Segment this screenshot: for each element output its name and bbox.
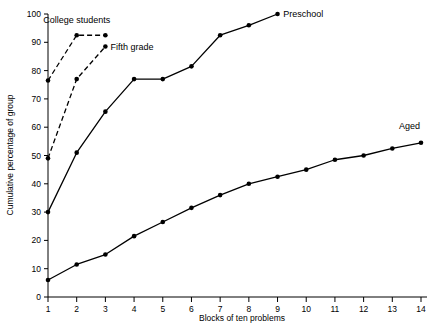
series-label-fifth-grade: Fifth grade	[111, 42, 154, 52]
y-tick-label: 70	[32, 94, 42, 104]
y-tick-label: 40	[32, 179, 42, 189]
data-point-marker	[74, 77, 79, 82]
data-point-marker	[103, 44, 108, 49]
x-tick-label: 11	[331, 304, 340, 314]
data-point-marker	[275, 174, 280, 179]
x-axis-title: Blocks of ten problems	[199, 313, 285, 323]
data-point-marker	[218, 193, 223, 198]
x-tick-label: 2	[74, 304, 79, 314]
data-point-marker	[46, 278, 51, 283]
y-axis-title: Cumulative percentage of group	[5, 94, 15, 215]
y-tick-label: 50	[32, 151, 42, 161]
cumulative-percentage-line-chart: 0102030405060708090100 12345678910111213…	[0, 0, 436, 326]
data-point-marker	[103, 109, 108, 114]
y-tick-label: 80	[32, 66, 42, 76]
y-tick-label: 60	[32, 122, 42, 132]
series-label-aged: Aged	[399, 121, 420, 131]
y-tick-label: 100	[27, 9, 41, 19]
y-tick-label: 20	[32, 235, 42, 245]
data-point-marker	[333, 157, 338, 162]
data-point-marker	[247, 182, 252, 187]
series-label-college-students: College students	[43, 15, 111, 25]
x-tick-label: 6	[189, 304, 194, 314]
data-point-marker	[189, 64, 194, 69]
y-tick-label: 0	[36, 292, 41, 302]
y-tick-label: 30	[32, 207, 42, 217]
chart-background	[0, 0, 436, 326]
data-point-marker	[103, 252, 108, 257]
x-tick-label: 5	[160, 304, 165, 314]
data-point-marker	[46, 156, 51, 161]
x-tick-label: 10	[301, 304, 311, 314]
data-point-marker	[419, 140, 424, 145]
x-tick-label: 3	[103, 304, 108, 314]
data-point-marker	[74, 33, 79, 38]
x-tick-label: 12	[359, 304, 369, 314]
x-tick-label: 4	[132, 304, 137, 314]
data-point-marker	[189, 206, 194, 211]
data-point-marker	[390, 146, 395, 151]
data-point-marker	[361, 153, 366, 158]
data-point-marker	[160, 77, 165, 82]
data-point-marker	[46, 78, 51, 83]
x-tick-label: 1	[46, 304, 51, 314]
series-label-preschool: Preschool	[283, 9, 323, 19]
data-point-marker	[247, 23, 252, 28]
data-point-marker	[74, 262, 79, 267]
data-point-marker	[218, 33, 223, 38]
data-point-marker	[103, 33, 108, 38]
y-tick-label: 90	[32, 37, 42, 47]
data-point-marker	[275, 12, 280, 17]
data-point-marker	[46, 210, 51, 215]
data-point-marker	[74, 150, 79, 155]
x-tick-label: 14	[416, 304, 426, 314]
x-tick-label: 13	[388, 304, 398, 314]
data-point-marker	[304, 167, 309, 172]
data-point-marker	[132, 77, 137, 82]
y-tick-label: 10	[32, 264, 42, 274]
data-point-marker	[132, 234, 137, 239]
chart-figure: 0102030405060708090100 12345678910111213…	[0, 0, 436, 326]
data-point-marker	[160, 220, 165, 225]
